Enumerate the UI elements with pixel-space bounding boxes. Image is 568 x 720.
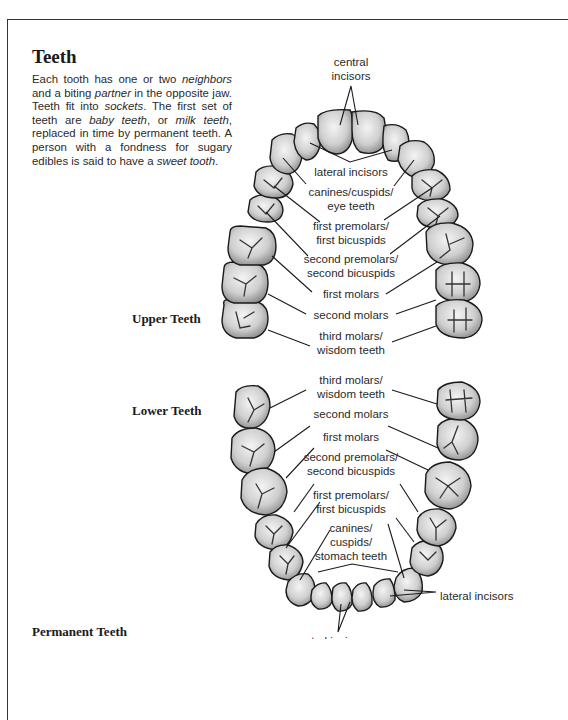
upper-second-molar-right [436,263,480,302]
svg-text:first premolars/: first premolars/ [313,489,390,501]
svg-text:second premolars/: second premolars/ [304,451,399,463]
svg-text:second premolars/: second premolars/ [304,253,399,265]
svg-text:incisors: incisors [332,70,371,82]
upper-third-molar-left [222,300,268,338]
svg-text:first bicuspids: first bicuspids [316,503,386,515]
svg-text:second molars: second molars [314,309,389,321]
svg-text:lateral incisors: lateral incisors [440,590,514,602]
svg-text:canines/: canines/ [330,522,374,534]
svg-text:cuspids/: cuspids/ [330,536,373,548]
lower-central-incisor-right [352,583,372,611]
lower-lateral-incisor-right [373,579,395,607]
upper-first-premolar-right [412,170,450,201]
upper-third-molar-right [436,300,482,338]
upper-second-premolar-left [248,195,283,222]
svg-text:eye teeth: eye teeth [327,200,374,212]
svg-text:second molars: second molars [314,408,389,420]
svg-text:wisdom teeth: wisdom teeth [316,388,385,400]
lower-central-incisor-left [332,583,352,611]
svg-text:wisdom teeth: wisdom teeth [316,344,385,356]
svg-text:lateral incisors: lateral incisors [314,166,388,178]
upper-central-incisor-left [318,110,353,154]
svg-text:central incisors: central incisors [293,635,370,639]
lower-third-molar-right [437,382,480,420]
svg-text:first molars: first molars [323,288,379,300]
upper-lateral-incisor-left [294,123,320,160]
svg-text:third molars/: third molars/ [319,374,383,386]
svg-text:first bicuspids: first bicuspids [316,234,386,246]
svg-text:stomach teeth: stomach teeth [315,550,387,562]
svg-text:second bicuspids: second bicuspids [307,267,395,279]
upper-labels: central incisors lateral incisors canine… [266,56,440,356]
lower-lateral-incisor-left [311,583,332,609]
svg-text:canines/cuspids/: canines/cuspids/ [308,186,394,198]
svg-text:second bicuspids: second bicuspids [307,465,395,477]
svg-text:first premolars/: first premolars/ [313,220,390,232]
upper-second-molar-left [222,262,268,303]
svg-text:third molars/: third molars/ [319,330,383,342]
svg-text:central: central [334,56,369,68]
svg-text:first molars: first molars [323,431,379,443]
lower-first-molar-left [241,468,287,515]
upper-first-molar-left [228,226,276,265]
